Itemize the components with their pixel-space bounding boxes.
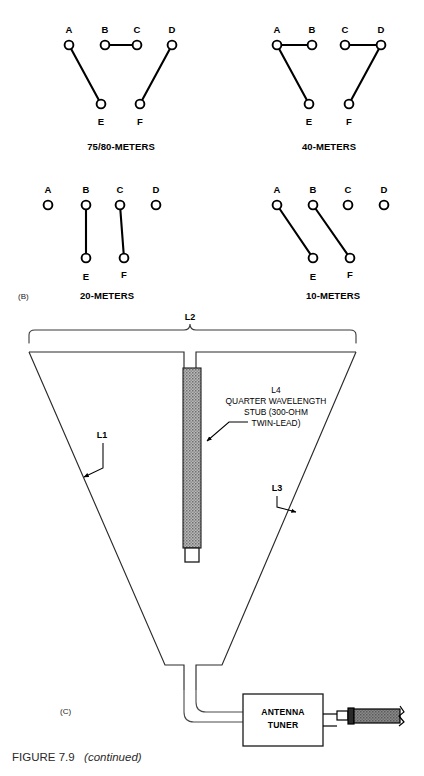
figure-7-9-continued: A B C D E F 75/80-METERS A B C D E (0, 0, 424, 776)
band-title-10-meters: 10-METERS (306, 290, 360, 301)
brace-path (29, 324, 356, 343)
l2-dimension-brace: L2 (29, 312, 356, 343)
terminal-c[interactable] (116, 201, 125, 210)
coax-connector-tip (337, 711, 348, 720)
stub-text-line-4: TWIN-LEAD) (252, 418, 301, 428)
jumper-d-f (349, 45, 381, 104)
terminal-label-a: A (274, 24, 281, 35)
terminal-label-d: D (378, 24, 385, 35)
switch-diagram-75-80-meters: A B C D E F 75/80-METERS (65, 24, 177, 152)
coax-cable (354, 709, 400, 723)
terminal-c[interactable] (344, 201, 353, 210)
stub-text-line-3: STUB (300-OHM (244, 407, 308, 417)
stub-terminus (185, 548, 199, 562)
terminal-c[interactable] (133, 41, 142, 50)
terminal-label-e: E (83, 271, 89, 282)
figure-caption: FIGURE 7.9 (continued) (12, 747, 142, 764)
terminal-d[interactable] (168, 41, 177, 50)
jumper-c-f (120, 205, 124, 258)
terminal-d[interactable] (152, 201, 161, 210)
band-title-40-meters: 40-METERS (302, 141, 356, 152)
terminal-label-e: E (306, 116, 312, 127)
stub-text-line-2: QUARTER WAVELENGTH (226, 396, 327, 406)
terminal-label-b: B (102, 24, 109, 35)
terminal-e[interactable] (309, 254, 318, 263)
band-title-75-80-meters: 75/80-METERS (87, 141, 155, 152)
antenna-top-right-wire (196, 352, 356, 368)
antenna-figure-svg: A B C D E F 75/80-METERS A B C D E (0, 0, 424, 776)
terminal-label-e: E (310, 271, 316, 282)
figure-caption-italic: (continued) (84, 751, 142, 763)
terminal-label-a: A (274, 184, 281, 195)
label-l3: L3 (272, 483, 283, 493)
antenna-left-slope (29, 352, 184, 690)
terminal-f[interactable] (120, 254, 129, 263)
terminal-a[interactable] (273, 201, 282, 210)
coax-connector-body (348, 708, 354, 724)
terminal-e[interactable] (97, 100, 106, 109)
switch-diagram-20-meters: A B C D E F 20-METERS (44, 184, 161, 301)
terminal-b[interactable] (309, 201, 318, 210)
stub-text-line-1: L4 (271, 385, 281, 395)
jumper-a-e (69, 45, 101, 104)
terminal-label-f: F (137, 116, 143, 127)
terminal-a[interactable] (65, 41, 74, 50)
terminal-d[interactable] (380, 201, 389, 210)
terminal-label-b: B (83, 184, 90, 195)
terminal-f[interactable] (345, 100, 354, 109)
jumper-b-f (313, 205, 350, 258)
tuner-label-line-2: TUNER (268, 720, 299, 730)
terminal-label-f: F (347, 269, 353, 280)
terminal-f[interactable] (346, 254, 355, 263)
terminal-c[interactable] (341, 41, 350, 50)
l4-callout: L4 QUARTER WAVELENGTH STUB (300-OHM TWIN… (207, 385, 326, 441)
panel-label-b: (B) (18, 292, 29, 301)
terminal-f[interactable] (136, 100, 145, 109)
label-l1: L1 (97, 430, 108, 440)
jumper-a-e (277, 45, 309, 104)
panel-label-c: (C) (60, 707, 71, 716)
terminal-label-f: F (121, 269, 127, 280)
terminal-b[interactable] (101, 41, 110, 50)
tuner-label-line-1: ANTENNA (261, 707, 304, 717)
terminal-a[interactable] (44, 201, 53, 210)
terminal-e[interactable] (82, 254, 91, 263)
terminal-b[interactable] (308, 41, 317, 50)
terminal-label-c: C (342, 24, 349, 35)
l3-callout: L3 (272, 483, 296, 512)
terminal-label-a: A (45, 184, 52, 195)
terminal-label-c: C (134, 24, 141, 35)
feedline-left (184, 690, 243, 722)
jumper-d-f (140, 45, 172, 104)
l4-leader-arrow (207, 422, 248, 441)
terminal-a[interactable] (273, 41, 282, 50)
terminal-label-d: D (381, 184, 388, 195)
terminal-label-d: D (169, 24, 176, 35)
terminal-label-d: D (153, 184, 160, 195)
terminal-b[interactable] (82, 201, 91, 210)
feedline-right (196, 690, 243, 712)
terminal-label-f: F (346, 116, 352, 127)
antenna-top-left-wire (29, 352, 184, 368)
terminal-label-e: E (98, 116, 104, 127)
switch-diagram-10-meters: A B C D E F 10-METERS (273, 184, 389, 301)
terminal-e[interactable] (305, 100, 314, 109)
terminal-label-a: A (66, 24, 73, 35)
coax-output (323, 706, 404, 726)
label-l2: L2 (185, 312, 196, 322)
band-title-20-meters: 20-METERS (80, 290, 134, 301)
jumper-a-e (277, 205, 313, 258)
quarter-wave-stub (183, 368, 201, 548)
terminal-label-b: B (309, 24, 316, 35)
terminal-label-b: B (310, 184, 317, 195)
terminal-d[interactable] (377, 41, 386, 50)
terminal-label-c: C (345, 184, 352, 195)
l1-leader-arrow (84, 443, 103, 477)
switch-diagram-40-meters: A B C D E F 40-METERS (273, 24, 386, 152)
figure-caption-main: FIGURE 7.9 (12, 751, 75, 763)
l1-callout: L1 (84, 430, 107, 477)
terminal-label-c: C (117, 184, 124, 195)
